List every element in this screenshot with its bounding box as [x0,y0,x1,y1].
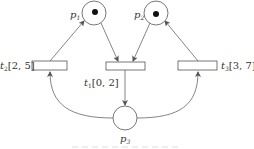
place-p3: p3 [113,106,137,145]
transition-t3: t3[3, 7] [178,60,254,72]
place-p1: p1 [70,1,106,25]
transition-t3-label: t3[3, 7] [221,60,254,72]
arc-t3-p2 [165,21,198,61]
arc-p1-t1 [101,23,118,61]
transition-t2-label: t2[2, 5] [0,60,35,72]
transition-t1-label: t1[0, 2] [84,77,119,89]
transition-t2: t2[2, 5] [0,60,67,72]
token-icon [92,9,98,15]
place-p3-label: p3 [120,133,130,145]
place-p2: p2 [134,1,168,25]
arc-t2-p1 [50,21,84,61]
arc-p2-t1 [133,23,150,61]
place-p2-label: p2 [134,9,144,21]
petri-net-diagram: p1 p2 p3 t1[0, 2] t2[2, 5] t3[3, 7] [0,0,254,149]
arc-p3-t3 [137,72,198,118]
token-icon [153,11,159,17]
place-p1-label: p1 [70,9,80,21]
transition-t1: t1[0, 2] [84,62,145,89]
